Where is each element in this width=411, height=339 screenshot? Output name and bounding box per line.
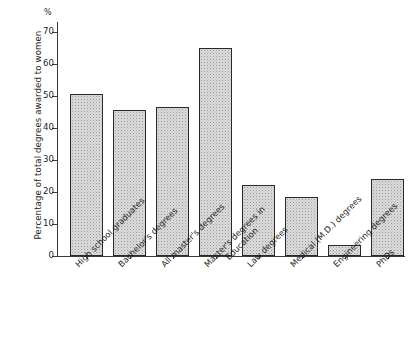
bar-bachelors-degrees bbox=[113, 110, 146, 256]
y-tick-label-0: 0 bbox=[49, 250, 54, 260]
y-axis-title: Percentage of total degrees awarded to w… bbox=[33, 10, 43, 260]
y-tick-label-50: 50 bbox=[43, 90, 54, 100]
y-axis-line bbox=[57, 22, 58, 256]
y-tick-label-60: 60 bbox=[43, 58, 54, 68]
y-tick-label-40: 40 bbox=[43, 122, 54, 132]
bar-high-school-graduates bbox=[70, 94, 103, 256]
y-tick-label-10: 10 bbox=[43, 218, 54, 228]
y-tick-label-30: 30 bbox=[43, 154, 54, 164]
plot-area: 0 10 20 30 40 50 60 70 bbox=[57, 22, 405, 256]
y-axis-unit-label: % bbox=[44, 8, 52, 17]
bar-chart: Percentage of total degrees awarded to w… bbox=[0, 0, 411, 339]
bar-all-masters-degrees bbox=[156, 107, 189, 256]
y-tick-label-70: 70 bbox=[43, 26, 54, 36]
y-tick-label-20: 20 bbox=[43, 186, 54, 196]
